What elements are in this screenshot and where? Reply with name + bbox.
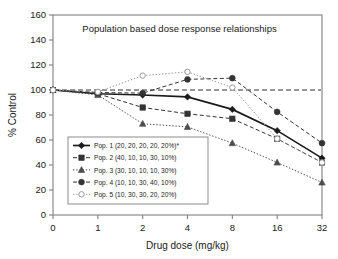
- legend-label-1: Pop. 1 (20, 20, 20, 20, 20%)*: [94, 142, 179, 150]
- legend-label-5: Pop. 5 (10, 30, 30, 20, 20%): [94, 191, 176, 199]
- legend-marker-5: [79, 192, 84, 197]
- legend-label-3: Pop. 3 (30, 10, 10, 10, 30%): [94, 167, 176, 175]
- data-point-s4-x2: [140, 90, 146, 96]
- data-point-s2-x2: [140, 105, 145, 110]
- chart-figure: 020406080100120140160012481632Drug dose …: [0, 0, 338, 259]
- y-axis-tick-label: 80: [35, 109, 46, 120]
- data-point-s4-x8: [229, 75, 235, 81]
- y-axis-tick-label: 100: [30, 84, 46, 95]
- legend-marker-4: [79, 179, 85, 185]
- y-axis-tick-label: 140: [30, 34, 46, 45]
- chart-title: Population based dose response relations…: [82, 23, 277, 34]
- x-axis-tick-label: 1: [95, 222, 100, 233]
- x-axis-title: Drug dose (mg/kg): [146, 240, 229, 251]
- x-axis-tick-label: 16: [272, 222, 283, 233]
- data-point-s5-x2: [140, 73, 145, 78]
- x-axis-tick-label: 2: [140, 222, 145, 233]
- y-axis-tick-label: 0: [41, 209, 46, 220]
- x-axis-tick-label: 32: [317, 222, 328, 233]
- y-axis-tick-label: 60: [35, 134, 46, 145]
- data-point-s5-x16: [274, 136, 279, 141]
- y-axis-tick-label: 160: [30, 9, 46, 20]
- data-point-s2-x8: [230, 116, 235, 121]
- data-point-s4-x4: [185, 76, 191, 82]
- y-axis-tick-label: 120: [30, 59, 46, 70]
- x-axis-tick-label: 4: [185, 222, 190, 233]
- legend-label-2: Pop. 2 (40, 10, 10, 30, 10%): [94, 154, 176, 162]
- y-axis-tick-label: 20: [35, 184, 46, 195]
- data-point-s5-x1: [95, 89, 100, 94]
- legend-label-4: Pop. 4 (10, 10, 30, 40, 10%): [94, 179, 176, 187]
- y-axis-title: % Control: [7, 93, 18, 137]
- data-point-s5-x32: [319, 160, 324, 165]
- data-point-s5-x0: [50, 87, 55, 92]
- y-axis-tick-label: 40: [35, 159, 46, 170]
- x-axis-tick-label: 0: [50, 222, 55, 233]
- legend-marker-2: [79, 155, 84, 160]
- dose-response-line-chart: 020406080100120140160012481632Drug dose …: [0, 0, 338, 259]
- data-point-s5-x4: [185, 69, 190, 74]
- data-point-s4-x16: [274, 109, 280, 115]
- data-point-s2-x4: [185, 111, 190, 116]
- data-point-s4-x32: [319, 140, 325, 146]
- x-axis-tick-label: 8: [230, 222, 235, 233]
- data-point-s5-x8: [230, 85, 235, 90]
